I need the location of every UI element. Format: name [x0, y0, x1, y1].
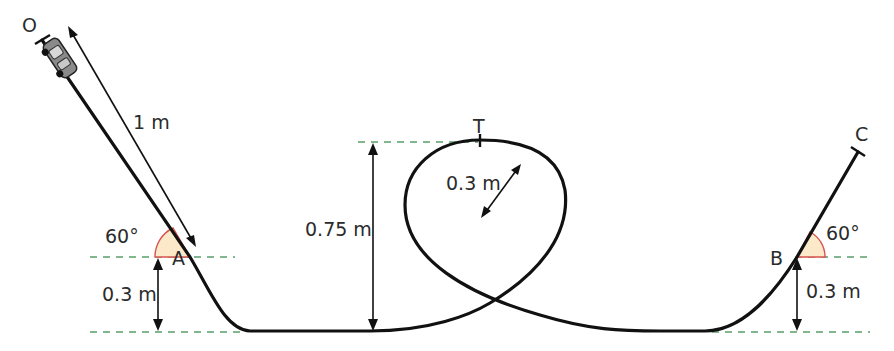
point-label-O: O [22, 14, 37, 36]
label-right-angle: 60° [826, 222, 860, 244]
label-loop-height: 0.75 m [305, 218, 372, 240]
point-label-A: A [172, 247, 185, 269]
track-diagram: O A T B C 1 m 60° 60° 0.3 m 0.3 m 0.75 m… [0, 0, 894, 351]
point-label-B: B [770, 247, 783, 269]
dimension-height-B [792, 258, 802, 331]
label-height-B: 0.3 m [806, 280, 861, 302]
guide-lines [90, 142, 870, 332]
dimension-incline-length [68, 26, 196, 247]
label-height-A: 0.3 m [102, 283, 157, 305]
label-loop-radius: 0.3 m [446, 172, 501, 194]
label-incline-length: 1 m [133, 111, 170, 133]
label-left-angle: 60° [105, 225, 139, 247]
point-label-T: T [472, 115, 485, 137]
point-label-C: C [855, 123, 868, 145]
